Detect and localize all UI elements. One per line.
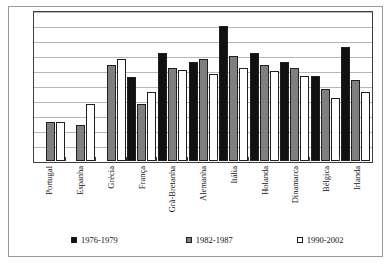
bar xyxy=(117,59,126,161)
bar-group xyxy=(66,13,97,161)
bar-group xyxy=(188,13,219,161)
bar xyxy=(56,122,65,161)
x-axis-tick-label: França xyxy=(137,166,146,189)
bar xyxy=(158,53,167,161)
bar-group xyxy=(35,13,66,161)
bar xyxy=(260,65,269,161)
bar xyxy=(168,68,177,161)
bar-group xyxy=(127,13,158,161)
bar-groups xyxy=(35,13,371,161)
bar xyxy=(137,104,146,161)
x-axis-label-cell: Bélgica xyxy=(311,164,342,222)
bar xyxy=(351,80,360,161)
bar-group xyxy=(279,13,310,161)
bar xyxy=(280,62,289,161)
x-axis-tick-label: Alemanha xyxy=(199,166,208,201)
bar xyxy=(86,104,95,161)
x-axis-tick-label: Irlanda xyxy=(352,166,361,190)
bar xyxy=(76,125,85,161)
x-axis-tick-label: Portugal xyxy=(45,166,54,195)
bar-group xyxy=(157,13,188,161)
bar-group xyxy=(218,13,249,161)
x-axis-label-cell: Portugal xyxy=(34,164,65,222)
x-axis-label-cell: Holanda xyxy=(249,164,280,222)
x-axis-label-cell: Itália xyxy=(218,164,249,222)
plot-wrapper xyxy=(33,11,373,163)
bar xyxy=(178,70,187,162)
x-axis-label-cell: Irlanda xyxy=(341,164,372,222)
plot-area xyxy=(33,11,373,163)
bar xyxy=(46,122,55,161)
chart-legend: 1976-1979 1982-1987 1990-2002 xyxy=(9,232,382,248)
bar xyxy=(331,98,340,161)
bar xyxy=(311,76,320,162)
bar xyxy=(219,26,228,161)
x-axis-tick-label: Bélgica xyxy=(322,166,331,192)
x-axis-tick-label: Grécia xyxy=(107,166,116,189)
x-axis-tick-label: Holanda xyxy=(260,166,269,195)
x-axis-label-cell: Grécia xyxy=(95,164,126,222)
bar xyxy=(250,53,259,161)
x-axis-tick-label: Espanha xyxy=(76,166,85,195)
legend-swatch-icon xyxy=(71,237,77,243)
bar xyxy=(229,56,238,161)
bar-group xyxy=(340,13,371,161)
bar xyxy=(199,59,208,161)
bar-group xyxy=(310,13,341,161)
x-axis-tick-label: Grã-Bretanha xyxy=(168,166,177,212)
x-axis-label-cell: Dinamarca xyxy=(280,164,311,222)
bar xyxy=(127,77,136,161)
legend-item-1990-2002: 1990-2002 xyxy=(297,235,344,245)
bar xyxy=(147,92,156,161)
x-axis-label-cell: Espanha xyxy=(65,164,96,222)
legend-label: 1990-2002 xyxy=(307,235,344,245)
bar xyxy=(107,65,116,161)
bar-group xyxy=(249,13,280,161)
bar xyxy=(361,92,370,161)
x-axis-label-cell: Grã-Bretanha xyxy=(157,164,188,222)
x-axis-label-cell: Alemanha xyxy=(188,164,219,222)
legend-label: 1982-1987 xyxy=(196,235,233,245)
bar xyxy=(341,47,350,161)
x-axis-tick-label: Dinamarca xyxy=(291,166,300,203)
legend-label: 1976-1979 xyxy=(81,235,118,245)
bar xyxy=(209,74,218,161)
legend-item-1976-1979: 1976-1979 xyxy=(71,235,118,245)
bar xyxy=(270,71,279,161)
bar xyxy=(321,89,330,161)
bar xyxy=(290,68,299,161)
x-axis-tick-label: Itália xyxy=(230,166,239,183)
legend-item-1982-1987: 1982-1987 xyxy=(186,235,233,245)
bar xyxy=(300,76,309,162)
x-axis-label-cell: França xyxy=(126,164,157,222)
chart-screenshot: 05101520253035404550 PortugalEspanhaGréc… xyxy=(0,0,391,265)
legend-swatch-icon xyxy=(297,237,303,243)
legend-swatch-icon xyxy=(186,237,192,243)
bar-group xyxy=(96,13,127,161)
bar xyxy=(189,62,198,161)
x-axis-labels: PortugalEspanhaGréciaFrançaGrã-BretanhaA… xyxy=(34,164,372,222)
bar xyxy=(239,68,248,161)
